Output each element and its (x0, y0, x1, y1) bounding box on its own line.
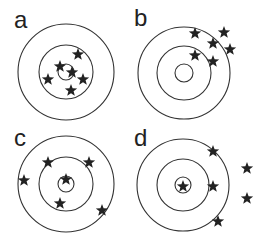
star-icon (177, 180, 189, 192)
target-panel-d (137, 139, 253, 231)
star-icon (54, 60, 66, 72)
star-icon (42, 156, 54, 168)
outer-ring (138, 27, 230, 119)
outer-ring (18, 24, 114, 120)
targets-canvas (0, 0, 269, 245)
target-panel-b (138, 26, 236, 119)
outer-ring (18, 136, 114, 232)
star-icon (18, 174, 30, 186)
middle-ring (39, 45, 93, 99)
star-icon (72, 48, 84, 60)
target-diagram-figure: a b c d (0, 0, 269, 245)
star-icon (54, 197, 66, 209)
star-icon (83, 156, 95, 168)
star-icon (60, 173, 72, 185)
star-icon (241, 192, 253, 204)
star-icon (65, 84, 77, 96)
star-icon (66, 66, 78, 78)
star-icon (218, 26, 230, 38)
target-panel-c (18, 136, 114, 232)
star-icon (42, 73, 54, 85)
star-icon (212, 215, 224, 227)
target-panel-a (18, 24, 114, 120)
star-icon (96, 204, 108, 216)
star-icon (207, 37, 219, 49)
bullseye-ring (175, 64, 193, 82)
star-icon (241, 162, 253, 174)
star-icon (207, 55, 219, 67)
middle-ring (157, 46, 211, 100)
star-icon (189, 27, 201, 39)
star-icon (77, 73, 89, 85)
